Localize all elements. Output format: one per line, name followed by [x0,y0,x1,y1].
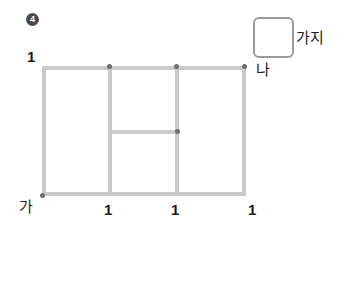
point-label-na: 나 [256,61,270,78]
length-label-bottom-1: 1 [104,202,112,218]
figure-bottom-edge [42,192,246,196]
point-label-ga: 가 [19,198,33,215]
figure-top-edge [42,66,246,70]
problem-number-badge: 4 [26,13,39,26]
length-label-bottom-3: 1 [248,202,256,218]
vertex-dot-ga [40,193,45,198]
figure-right-edge [242,66,246,196]
answer-unit-label: 가지 [296,29,324,46]
vertex-dot-top-1 [107,64,112,69]
length-label-bottom-2: 1 [171,202,179,218]
problem-figure-canvas: 4 1 가 나 1 1 1 가지 [0,0,349,285]
figure-left-edge [42,66,46,196]
length-label-left: 1 [27,49,35,65]
figure-inner-horizontal [108,130,179,134]
vertex-dot-na [242,64,247,69]
answer-input-box[interactable] [253,17,294,58]
vertex-dot-top-2 [174,64,179,69]
vertex-dot-mid-junction [175,129,180,134]
